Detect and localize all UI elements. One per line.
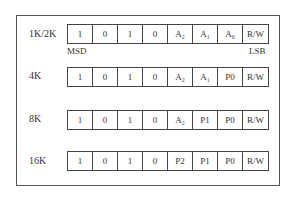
- bit-cell: 1: [68, 111, 93, 129]
- bit-cell: 1: [68, 68, 93, 86]
- row-label-1k2k: 1K/2K: [29, 28, 56, 39]
- bit-cell: A₀: [218, 25, 243, 43]
- bit-cell: 0: [143, 25, 168, 43]
- row-label-8k: 8K: [29, 113, 41, 124]
- bit-cell: 1: [118, 111, 143, 129]
- bit-cell: R/W: [243, 111, 268, 129]
- bit-cell: 0: [93, 111, 118, 129]
- bit-cell: R/W: [243, 68, 268, 86]
- bit-cell: P0: [218, 68, 243, 86]
- bit-cell: 0: [93, 25, 118, 43]
- bit-cell: R/W: [243, 25, 268, 43]
- bit-cell: A₁: [193, 68, 218, 86]
- bit-cell: 1: [68, 25, 93, 43]
- bit-cell: 1: [118, 152, 143, 170]
- bit-cell: P1: [193, 111, 218, 129]
- bit-cell: 0: [143, 111, 168, 129]
- bit-cell: A₁: [193, 25, 218, 43]
- lsb-marker: LSB: [249, 46, 266, 56]
- msd-marker: MSD: [67, 46, 87, 56]
- bit-cell: 1: [118, 25, 143, 43]
- row-label-4k: 4K: [29, 70, 41, 81]
- bit-cell: 1: [68, 152, 93, 170]
- address-register-8k: 1 0 1 0 A₂ P1 P0 R/W: [67, 110, 269, 130]
- address-register-4k: 1 0 1 0 A₂ A₁ P0 R/W: [67, 67, 269, 87]
- bit-cell: 0: [93, 152, 118, 170]
- row-label-16k: 16K: [29, 155, 46, 166]
- bit-cell: 0: [143, 152, 168, 170]
- bit-cell: R/W: [243, 152, 268, 170]
- bit-cell: P0: [218, 111, 243, 129]
- bit-cell: 0: [143, 68, 168, 86]
- bit-cell: P1: [193, 152, 218, 170]
- address-register-1k2k: 1 0 1 0 A₂ A₁ A₀ R/W: [67, 24, 269, 44]
- bit-cell: 1: [118, 68, 143, 86]
- bit-cell: A₂: [168, 111, 193, 129]
- bit-cell: P2: [168, 152, 193, 170]
- address-register-16k: 1 0 1 0 P2 P1 P0 R/W: [67, 151, 269, 171]
- bit-cell: A₂: [168, 68, 193, 86]
- bit-cell: P0: [218, 152, 243, 170]
- bit-cell: A₂: [168, 25, 193, 43]
- bit-cell: 0: [93, 68, 118, 86]
